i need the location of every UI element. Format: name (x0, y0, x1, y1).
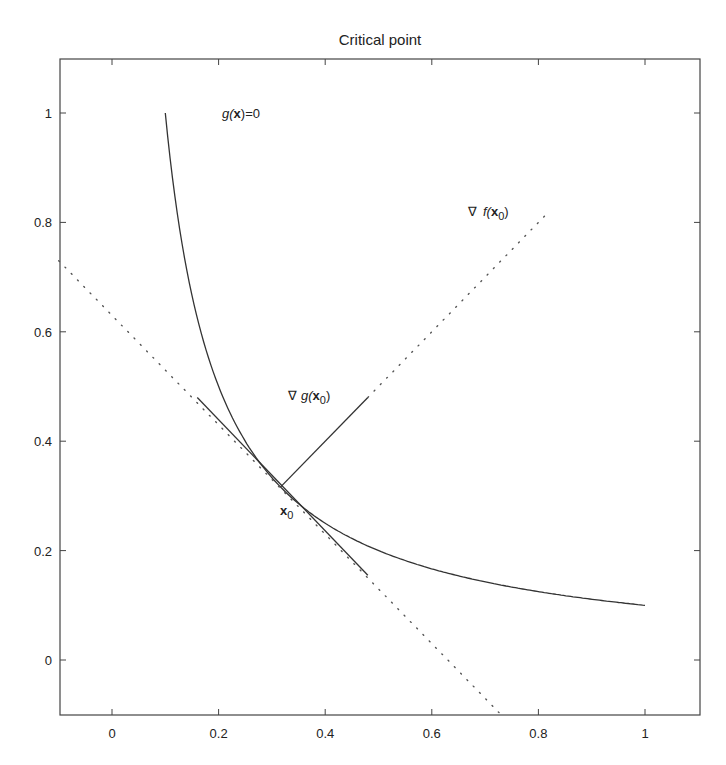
annotation-grad-f: ∇f(x0) (467, 204, 509, 222)
tangent-line-dotted (59, 261, 501, 715)
annotation-x0: x0 (280, 503, 293, 521)
y-tick-label: 0.8 (34, 215, 52, 230)
y-tick-label: 0 (45, 653, 52, 668)
x-tick-label: 0.2 (210, 726, 228, 741)
gradient-f-dotted (368, 211, 549, 397)
y-tick-label: 0.6 (34, 325, 52, 340)
gradient-g-vector (280, 397, 367, 487)
chart-figure: Critical point 00.20.40.60.8100.20.40.60… (0, 0, 726, 765)
chart-title: Critical point (339, 31, 422, 48)
annotation-grad-g: ∇g(x0) (287, 388, 330, 406)
x-tick-label: 0.4 (316, 726, 334, 741)
x-tick-label: 1 (641, 726, 648, 741)
annotation-constraint: g(x)=0 (222, 106, 260, 121)
y-tick-label: 0.4 (34, 434, 52, 449)
axis-ticks (60, 59, 700, 715)
axis-tick-labels: 00.20.40.60.8100.20.40.60.81 (34, 106, 649, 741)
x-tick-label: 0 (108, 726, 115, 741)
x-tick-label: 0.6 (423, 726, 441, 741)
x-tick-label: 0.8 (529, 726, 547, 741)
y-tick-label: 1 (45, 106, 52, 121)
plot-area-frame (60, 59, 700, 715)
y-tick-label: 0.2 (34, 544, 52, 559)
